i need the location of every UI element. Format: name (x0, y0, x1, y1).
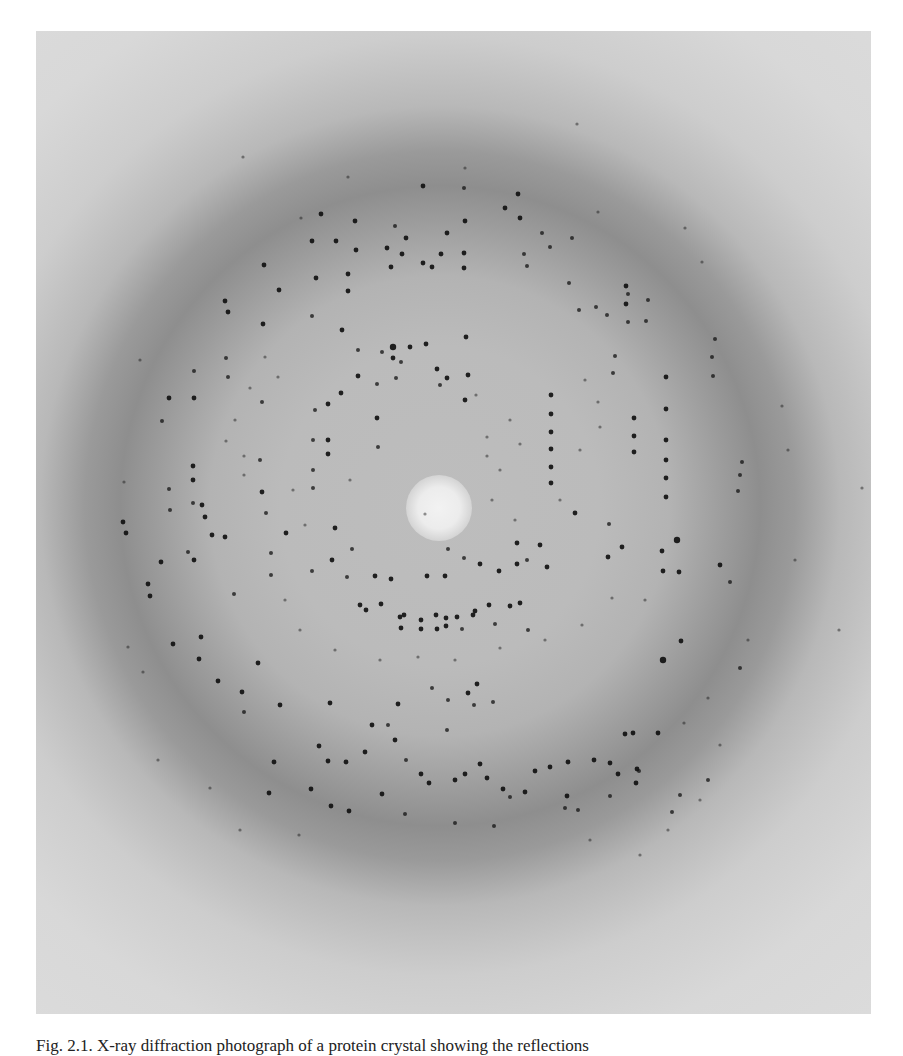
diffraction-spot (664, 438, 669, 443)
diffraction-spot (378, 658, 381, 661)
diffraction-spot (141, 670, 144, 673)
diffraction-spot (358, 603, 363, 608)
diffraction-spot (326, 759, 331, 764)
diffraction-spot (605, 313, 609, 317)
diffraction-spot (518, 216, 523, 221)
diffraction-spot (549, 393, 554, 398)
diffraction-spot (498, 468, 501, 471)
diffraction-spot (443, 574, 448, 579)
diffraction-spot (267, 791, 272, 796)
diffraction-spot (464, 335, 469, 340)
diffraction-spot (466, 373, 471, 378)
diffraction-spot (664, 495, 669, 500)
diffraction-spot (580, 623, 583, 626)
diffraction-spot (224, 356, 228, 360)
diffraction-spot (199, 635, 204, 640)
diffraction-spot (713, 337, 717, 341)
diffraction-spot (453, 778, 458, 783)
diffraction-spot (326, 452, 331, 457)
diffraction-spot (670, 810, 674, 814)
diffraction-spot (632, 434, 637, 439)
diffraction-spot (549, 481, 554, 486)
diffraction-spot (446, 698, 450, 702)
diffraction-spot (634, 781, 639, 786)
diffraction-spot (728, 580, 732, 584)
diffraction-spot (860, 486, 863, 489)
diffraction-spot (242, 454, 245, 457)
diffraction-spot (126, 645, 129, 648)
diffraction-spot (333, 526, 338, 531)
diffraction-spot (399, 360, 403, 364)
diffraction-spot (146, 582, 151, 587)
diffraction-spot (575, 122, 578, 125)
diffraction-spot (549, 412, 554, 417)
diffraction-spot (538, 543, 543, 548)
diffraction-spot (718, 743, 721, 746)
diffraction-spot (463, 166, 466, 169)
diffraction-spot (403, 812, 407, 816)
diffraction-spot (350, 547, 354, 551)
diffraction-spot (445, 728, 449, 732)
diffraction-spot (200, 503, 205, 508)
diffraction-spot (430, 686, 434, 690)
diffraction-spot (192, 369, 196, 373)
diffraction-spot (240, 690, 245, 695)
diffraction-spot (577, 308, 581, 312)
diffraction-spot (373, 574, 378, 579)
diffraction-spot (191, 464, 196, 469)
diffraction-spot (311, 438, 315, 442)
diffraction-spot (197, 657, 202, 662)
diffraction-spot (522, 252, 526, 256)
diffraction-spot (421, 184, 426, 189)
diffraction-spot (309, 787, 314, 792)
diffraction-spot (330, 558, 335, 563)
diffraction-spot (793, 558, 796, 561)
diffraction-spot (434, 613, 439, 618)
diffraction-spot (284, 531, 289, 536)
diffraction-spot (159, 560, 164, 565)
diffraction-spot (623, 732, 628, 737)
diffraction-spot (624, 284, 629, 289)
diffraction-spot (238, 828, 241, 831)
diffraction-spot (353, 219, 358, 224)
diffraction-spot (455, 615, 460, 620)
diffraction-spot (508, 418, 511, 421)
diffraction-spot (592, 758, 597, 763)
diffraction-spot (375, 416, 380, 421)
diffraction-spot (503, 206, 508, 211)
diffraction-spot (380, 350, 384, 354)
diffraction-spot (283, 598, 286, 601)
diffraction-spot (419, 772, 424, 777)
diffraction-spot (317, 744, 322, 749)
diffraction-spot (223, 299, 228, 304)
diffraction-spot (462, 186, 466, 190)
diffraction-spot (445, 376, 450, 381)
diffraction-spot (596, 400, 599, 403)
diffraction-spot (167, 487, 171, 491)
diffraction-spot (379, 602, 384, 607)
diffraction-spot (608, 761, 613, 766)
diffraction-spot (508, 795, 512, 799)
diffraction-spot (260, 400, 264, 404)
diffraction-spot (334, 239, 339, 244)
diffraction-spot (460, 627, 464, 631)
diffraction-spot (558, 498, 561, 501)
diffraction-spot (711, 374, 715, 378)
diffraction-spot (248, 386, 251, 389)
diffraction-spot (548, 245, 552, 249)
diffraction-spot (223, 535, 228, 540)
diffraction-spot (328, 701, 333, 706)
diffraction-spot (545, 565, 550, 570)
diffraction-spot (191, 478, 196, 483)
diffraction-spot (492, 824, 496, 828)
diffraction-spot (462, 266, 467, 271)
diffraction-spot (311, 468, 315, 472)
diffraction-spot (393, 224, 397, 228)
diffraction-spot (303, 523, 306, 526)
diffraction-spot (487, 603, 492, 608)
diffraction-spot (333, 648, 336, 651)
diffraction-spot (444, 616, 449, 621)
diffraction-spot (491, 700, 495, 704)
diffraction-spot (474, 393, 477, 396)
diffraction-spot (736, 489, 740, 493)
